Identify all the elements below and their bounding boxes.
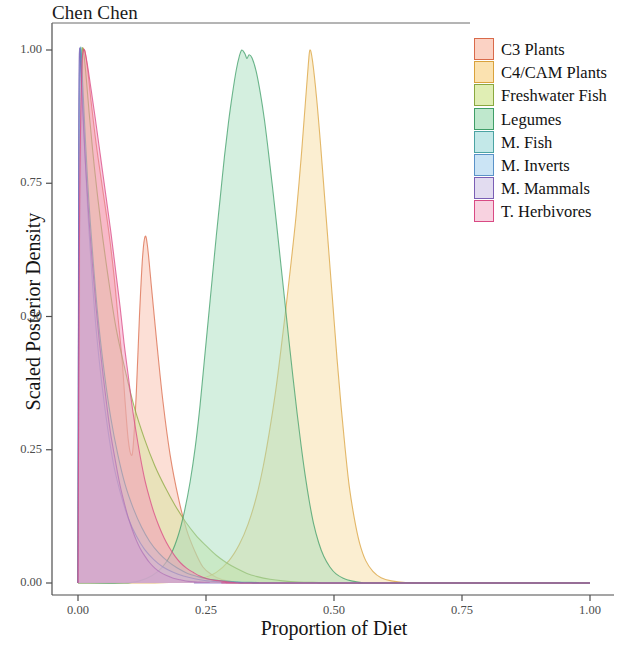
- legend-label[interactable]: T. Herbivores: [501, 204, 591, 221]
- density-chart: Chen Chen Scaled Posterior Density Propo…: [0, 0, 623, 648]
- y-tick-label: 0.50: [2, 309, 42, 324]
- legend-label[interactable]: M. Fish: [501, 135, 552, 152]
- x-tick-label: 0.50: [309, 603, 359, 618]
- legend-swatch[interactable]: [474, 200, 494, 222]
- x-axis-title: Proportion of Diet: [78, 617, 590, 640]
- legend-label[interactable]: Freshwater Fish: [501, 88, 607, 105]
- page-title: Chen Chen: [52, 2, 138, 24]
- x-tick-label: 0.25: [181, 603, 231, 618]
- y-tick-label: 0.00: [2, 575, 42, 590]
- legend-swatch[interactable]: [474, 108, 494, 130]
- legend-swatch[interactable]: [474, 61, 494, 83]
- legend-swatch[interactable]: [474, 84, 494, 106]
- x-tick-label: 0.75: [437, 603, 487, 618]
- legend-swatch[interactable]: [474, 154, 494, 176]
- x-tick-label: 1.00: [565, 603, 615, 618]
- legend-swatch[interactable]: [474, 177, 494, 199]
- legend-label[interactable]: M. Mammals: [501, 181, 590, 198]
- x-tick-label: 0.00: [53, 603, 103, 618]
- y-tick-label: 1.00: [2, 42, 42, 57]
- legend-label[interactable]: C3 Plants: [501, 42, 565, 59]
- legend-label[interactable]: M. Inverts: [501, 158, 570, 175]
- y-tick-label: 0.25: [2, 442, 42, 457]
- y-tick-label: 0.75: [2, 175, 42, 190]
- legend-label[interactable]: Legumes: [501, 112, 561, 129]
- legend-swatch[interactable]: [474, 38, 494, 60]
- legend-swatch[interactable]: [474, 131, 494, 153]
- legend-label[interactable]: C4/CAM Plants: [501, 65, 607, 82]
